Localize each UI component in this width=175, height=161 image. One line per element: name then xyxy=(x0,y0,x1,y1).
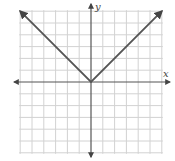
y-axis-label: y xyxy=(94,1,101,12)
x-axis-label: x xyxy=(163,68,169,79)
coordinate-plane: x y xyxy=(0,0,175,161)
